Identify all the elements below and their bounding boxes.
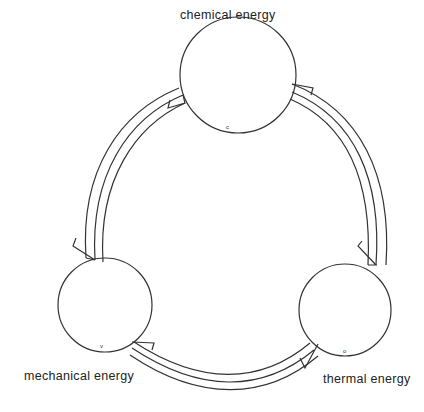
arrow-chemical-thermal <box>290 84 387 265</box>
node-thermal-circle <box>299 264 391 356</box>
node-mechanical-marker: v <box>100 343 103 349</box>
node-chemical-marker: c <box>226 124 229 130</box>
node-mechanical-circle <box>58 258 152 352</box>
arrow-mechanical-thermal <box>130 342 318 390</box>
arrow-chemical-mechanical <box>73 88 185 262</box>
node-chemical-circle <box>180 17 296 133</box>
node-chemical-label: chemical energy <box>180 8 276 22</box>
energy-cycle-diagram <box>0 0 424 412</box>
node-mechanical-label: mechanical energy <box>24 369 134 383</box>
node-thermal-label: thermal energy <box>323 372 411 386</box>
node-thermal-marker: o <box>343 348 346 354</box>
